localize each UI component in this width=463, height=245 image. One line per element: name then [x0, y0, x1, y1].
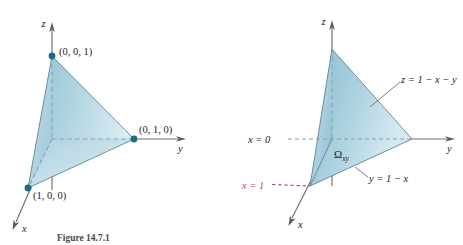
- left-vertex-dot-y: [131, 136, 138, 143]
- left-y-axis-label: y: [177, 143, 183, 154]
- left-figure: z y x (0, 0, 1) (0, 1, 0) (1, 0, 0): [13, 18, 187, 234]
- x-equals-zero-label: x = 0: [247, 134, 271, 145]
- left-vertex-label-y: (0, 1, 0): [139, 124, 173, 136]
- boundary-line-label: y = 1 − x: [368, 173, 409, 184]
- plane-equation-label: z = 1 − x − y: [400, 74, 457, 85]
- region-omega-subscript: xy: [341, 154, 349, 163]
- boundary-line-leader: [355, 167, 368, 177]
- right-y-axis-label: y: [446, 143, 452, 154]
- right-figure: z y x z = 1 − x − y x = 0 x = 1 Ωxy y = …: [241, 16, 457, 230]
- right-x-one-dash: [272, 185, 310, 187]
- left-vertex-dot-z: [49, 53, 56, 60]
- left-z-axis-label: z: [41, 18, 46, 29]
- right-z-axis-label: z: [321, 16, 326, 27]
- left-vertex-label-z: (0, 0, 1): [59, 46, 93, 58]
- left-vertex-label-x: (1, 0, 0): [33, 190, 67, 202]
- x-equals-one-label: x = 1: [241, 180, 264, 191]
- region-omega-symbol: Ω: [334, 148, 342, 160]
- right-x-axis-label: x: [297, 219, 303, 230]
- plane-equation-leader: [370, 82, 400, 107]
- figure-caption: Figure 14.7.1: [57, 233, 110, 243]
- left-x-axis-label: x: [21, 223, 27, 234]
- left-vertex-dot-x: [25, 185, 32, 192]
